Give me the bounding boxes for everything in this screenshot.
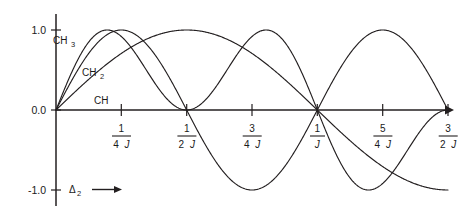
y-tick-label-0: 0.0 (31, 104, 46, 116)
chart-svg: 1.0 0.0 -1.0 1 4 J 1 2 J 3 4 J 1 (0, 0, 469, 222)
chart-figure: 1.0 0.0 -1.0 1 4 J 1 2 J 3 4 J 1 (0, 0, 469, 222)
x-tick-5-numerator: 3 (445, 123, 451, 134)
x-tick-0-numerator: 1 (119, 123, 125, 134)
x-tick-1-numerator: 1 (184, 123, 190, 134)
x-tick-4-numerator: 5 (380, 123, 386, 134)
x-tick-2-numerator: 3 (249, 123, 255, 134)
curve-label-ch: CH (94, 95, 108, 106)
x-tick-4-denominator-j: J (385, 139, 392, 150)
x-tick-label-1: 1 2 J (177, 123, 196, 150)
x-tick-5-denominator-j: J (450, 139, 457, 150)
x-tick-2-denominator: 4 (244, 139, 250, 150)
x-axis-label-symbol: Δ (69, 184, 76, 195)
x-tick-0-denominator: 4 (113, 139, 119, 150)
x-tick-label-4: 5 4 J (373, 123, 392, 150)
x-tick-2-denominator-j: J (254, 139, 261, 150)
y-tick-label-neg1: -1.0 (28, 184, 46, 196)
x-tick-3-numerator: 1 (315, 123, 321, 134)
y-tick-label-1: 1.0 (31, 24, 46, 36)
x-tick-1-denominator: 2 (179, 139, 185, 150)
x-tick-label-2: 3 4 J (243, 123, 262, 150)
x-axis-label: Δ 2 (69, 184, 122, 198)
x-tick-label-3: 1 J (310, 123, 325, 150)
curve-label-ch2-sub: 2 (100, 72, 104, 81)
x-tick-0-denominator-j: J (124, 139, 131, 150)
curve-label-ch2-text: CH (82, 67, 96, 78)
x-axis-label-subscript: 2 (77, 189, 81, 198)
x-tick-1-denominator-j: J (189, 139, 196, 150)
curve-label-ch3-sub: 3 (71, 40, 75, 49)
x-tick-label-0: 1 4 J (112, 123, 131, 150)
x-tick-4-denominator: 4 (375, 139, 381, 150)
x-axis-label-arrowhead (114, 186, 122, 193)
curve-label-ch-text: CH (94, 95, 108, 106)
curve-label-ch3-text: CH (53, 35, 67, 46)
x-tick-label-5: 3 2 J (439, 123, 458, 150)
x-tick-5-denominator: 2 (440, 139, 446, 150)
x-tick-3-denominator-j: J (314, 139, 321, 150)
